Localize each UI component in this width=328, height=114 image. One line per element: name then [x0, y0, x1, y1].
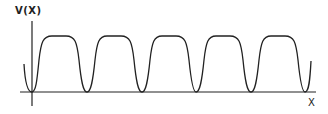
y-axis-label: V(X): [15, 5, 42, 16]
potential-diagram: [0, 0, 328, 114]
potential-curve: [24, 36, 311, 92]
x-axis-label: X: [308, 97, 315, 108]
